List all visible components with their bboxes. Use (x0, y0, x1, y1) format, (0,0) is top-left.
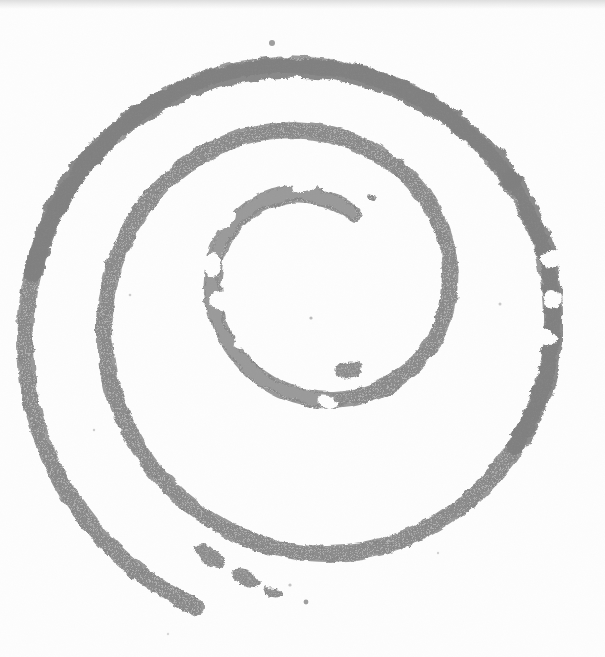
ink-speck (213, 308, 216, 311)
ink-speck (269, 40, 275, 46)
ink-speck (437, 552, 439, 554)
ink-speck (304, 600, 309, 605)
ink-speck (167, 633, 169, 635)
ink-speck (499, 303, 502, 306)
ink-speck (93, 429, 95, 431)
inner-blob-tip (367, 192, 377, 200)
ink-speck (309, 316, 312, 319)
scanned-image-canvas (0, 0, 605, 657)
ink-speck (129, 294, 132, 297)
hand-drawn-spiral-artwork (0, 0, 605, 657)
ink-speck (288, 583, 291, 586)
